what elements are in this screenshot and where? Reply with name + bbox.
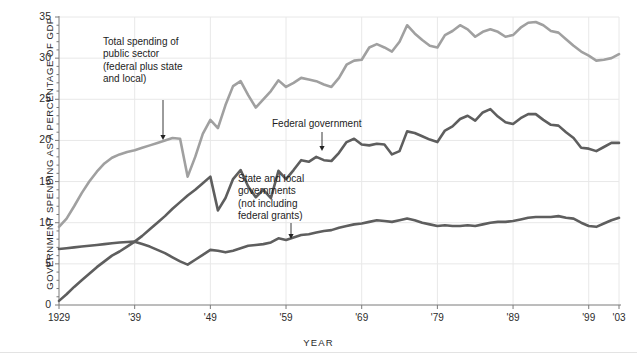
federal-annotation: Federal government [272,118,362,130]
chart-page: GOVERNMENT SPENDING AS A PERCENTAGE OF G… [0,0,637,359]
annotation-arrow-head [319,146,324,151]
chart-plot-area [0,0,637,359]
state-local-annotation: State and local governments (not includi… [238,173,304,223]
page-bottom-rule [0,352,637,353]
total-annotation: Total spending of public sector (federal… [103,36,183,86]
series-line-federal [59,109,619,301]
series-line-state_local [59,216,619,265]
